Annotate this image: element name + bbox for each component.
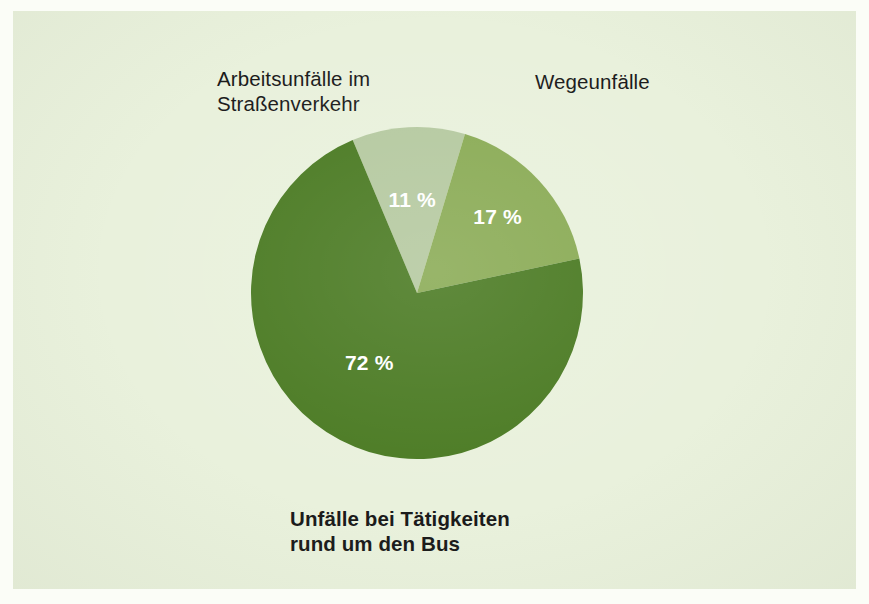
chart-panel: 11 %17 %72 % Arbeitsunfälle im Straßenve… — [13, 11, 856, 589]
pie-slice-value-label: 17 % — [473, 205, 522, 228]
category-label-wegeunfaelle: Wegeunfälle — [535, 69, 650, 94]
pie-chart-figure: 11 %17 %72 % Arbeitsunfälle im Straßenve… — [0, 0, 869, 604]
pie-slice-value-label: 72 % — [345, 351, 394, 374]
category-label-arbeitsunfaelle: Arbeitsunfälle im Straßenverkehr — [217, 66, 370, 116]
pie-chart-svg: 11 %17 %72 % — [13, 11, 856, 589]
pie-slice-value-label: 11 % — [388, 188, 436, 211]
category-label-unfaelle-bus: Unfälle bei Tätigkeiten rund um den Bus — [290, 506, 510, 556]
pie-container: 11 %17 %72 % — [13, 11, 856, 589]
pie-slices-group — [251, 127, 583, 459]
